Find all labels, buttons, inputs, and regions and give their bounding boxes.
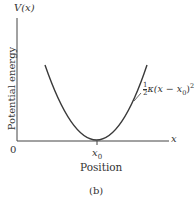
x0-sub: 0 (98, 153, 102, 161)
x0-tick-label: x0 (92, 147, 102, 161)
x-axis-title: Position (80, 161, 122, 173)
x-axis-symbol: x (171, 133, 177, 144)
figure-caption: (b) (89, 185, 103, 196)
y-axis-title: Potential energy (6, 44, 17, 134)
y-axis-symbol: V(x) (14, 2, 35, 13)
curve-equation-label: 1 2 κ(x − x0)2 (143, 82, 194, 97)
origin-label: 0 (10, 144, 16, 155)
parabola-curve (45, 65, 147, 140)
